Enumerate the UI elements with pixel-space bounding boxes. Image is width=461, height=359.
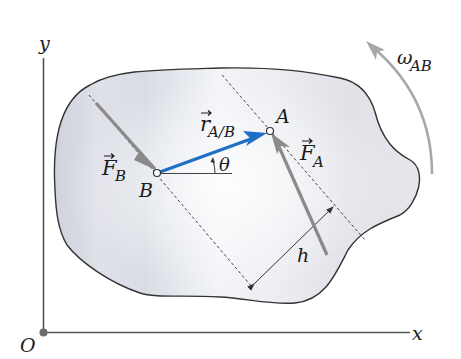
h-label: h <box>297 244 309 266</box>
omega-label: ω AB <box>397 46 432 75</box>
rigid-body-diagram: y x O h θ F B F A <box>0 0 461 359</box>
svg-text:B: B <box>114 167 126 185</box>
origin-label: O <box>20 334 36 356</box>
svg-text:AB: AB <box>408 57 432 75</box>
point-b-label: B <box>138 179 153 201</box>
svg-text:A/B: A/B <box>206 123 235 141</box>
theta-label: θ <box>219 154 230 175</box>
rigid-body <box>54 68 419 303</box>
point-a-label: A <box>274 105 290 127</box>
svg-text:A: A <box>311 153 324 171</box>
origin-dot <box>40 329 48 337</box>
y-axis-label: y <box>38 32 50 54</box>
x-axis-label: x <box>412 322 423 344</box>
